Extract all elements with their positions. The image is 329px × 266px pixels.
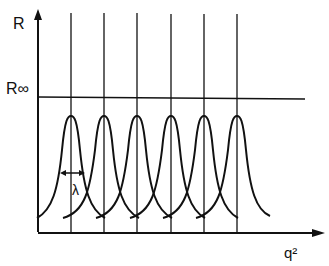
width-label: λ xyxy=(72,182,79,198)
axes xyxy=(34,9,325,237)
peak-5 xyxy=(163,116,238,218)
y-axis-arrow-icon xyxy=(34,9,42,20)
resonance-diagram xyxy=(0,0,329,266)
peak-2 xyxy=(63,116,139,218)
vertical-lines xyxy=(71,13,237,233)
peak-3 xyxy=(96,116,172,218)
width-marker xyxy=(60,170,85,176)
x-axis-label: q² xyxy=(284,244,297,261)
peak-6 xyxy=(196,116,270,218)
peak-4 xyxy=(130,116,205,218)
x-axis-arrow-icon xyxy=(312,229,325,237)
y-axis-label: R xyxy=(13,15,25,33)
asymptote-label: R∞ xyxy=(6,80,29,98)
resonance-peaks xyxy=(37,116,270,218)
